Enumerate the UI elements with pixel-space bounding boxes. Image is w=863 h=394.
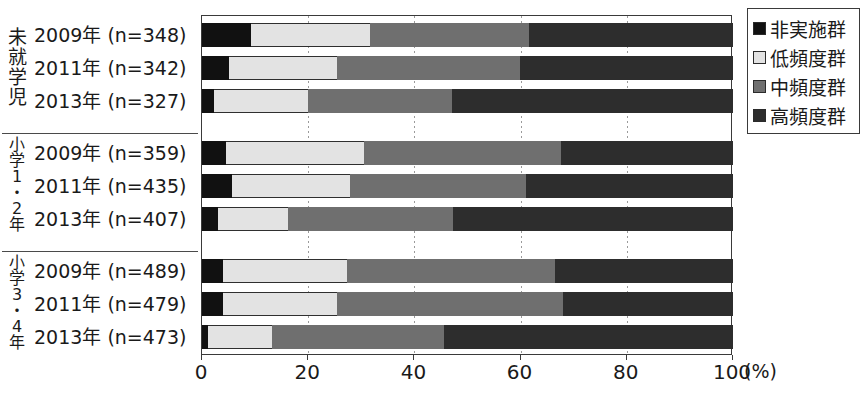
row-label: 2011年 (n=435): [34, 168, 186, 201]
bar-row: [202, 325, 733, 349]
bar-segment-低頻度群: [214, 89, 309, 113]
row-label: 2011年 (n=342): [34, 50, 186, 83]
bar-row: [202, 56, 733, 80]
bar-segment-非実施群: [202, 292, 223, 316]
legend-label: 高頻度群: [770, 102, 846, 129]
stacked-bar-chart: 未 就 学 児2009年 (n=348)2011年 (n=342)2013年 (…: [0, 0, 863, 394]
bar-segment-非実施群: [202, 259, 223, 283]
bar-segment-高頻度群: [526, 174, 733, 198]
bar-segment-高頻度群: [444, 325, 733, 349]
row-label: 2009年 (n=348): [34, 17, 186, 50]
x-tick-label: 40: [401, 360, 426, 384]
row-label: 2013年 (n=327): [34, 83, 186, 116]
group-separator-2: [2, 251, 198, 252]
bar-segment-中頻度群: [370, 23, 529, 47]
bar-segment-低頻度群: [229, 56, 337, 80]
bar-segment-非実施群: [202, 56, 229, 80]
legend-item-中頻度群[interactable]: 中頻度群: [753, 72, 859, 101]
x-tick-label: 0: [195, 360, 208, 384]
bar-segment-高頻度群: [563, 292, 733, 316]
x-axis-unit-label: (%): [744, 360, 777, 382]
bar-segment-高頻度群: [452, 89, 733, 113]
bar-segment-中頻度群: [347, 259, 555, 283]
group-block-2: 小 学 3 ・ 4 年2009年 (n=489)2011年 (n=479)201…: [0, 253, 186, 352]
row-label: 2009年 (n=359): [34, 135, 186, 168]
bar-segment-低頻度群: [232, 174, 349, 198]
bar-segment-非実施群: [202, 174, 232, 198]
bar-segment-非実施群: [202, 23, 251, 47]
bar-row: [202, 174, 733, 198]
bar-segment-非実施群: [202, 207, 218, 231]
bar-segment-低頻度群: [218, 207, 288, 231]
bar-segment-低頻度群: [223, 259, 348, 283]
row-label: 2013年 (n=473): [34, 319, 186, 352]
group-row-labels: 2009年 (n=348)2011年 (n=342)2013年 (n=327): [34, 17, 186, 116]
bar-segment-中頻度群: [272, 325, 444, 349]
bar-segment-高頻度群: [561, 141, 733, 165]
bar-row: [202, 292, 733, 316]
bar-segment-高頻度群: [453, 207, 733, 231]
x-tick-label: 60: [507, 360, 532, 384]
legend-swatch-dark-icon: [753, 109, 766, 122]
legend-swatch-light-icon: [753, 51, 766, 64]
group-block-1: 小 学 1 ・ 2 年2009年 (n=359)2011年 (n=435)201…: [0, 135, 186, 234]
bar-row: [202, 89, 733, 113]
legend-swatch-medium-icon: [753, 80, 766, 93]
bar-segment-中頻度群: [337, 292, 563, 316]
row-label: 2009年 (n=489): [34, 253, 186, 286]
bar-segment-非実施群: [202, 89, 214, 113]
bar-segment-高頻度群: [520, 56, 733, 80]
group-row-labels: 2009年 (n=489)2011年 (n=479)2013年 (n=473): [34, 253, 186, 352]
legend: 非実施群低頻度群中頻度群高頻度群: [747, 8, 860, 134]
bar-segment-中頻度群: [364, 141, 561, 165]
bar-row: [202, 141, 733, 165]
bar-segment-高頻度群: [529, 23, 733, 47]
legend-label: 中頻度群: [770, 73, 846, 100]
bar-segment-低頻度群: [226, 141, 364, 165]
legend-item-高頻度群[interactable]: 高頻度群: [753, 101, 859, 130]
group-separator-1: [2, 133, 198, 134]
x-axis: 020406080100: [201, 355, 732, 385]
x-tick-label: 80: [613, 360, 638, 384]
group-title: 小 学 1 ・ 2 年: [0, 137, 34, 233]
group-title: 未 就 学 児: [0, 27, 34, 107]
x-tick-label: 20: [294, 360, 319, 384]
bar-row: [202, 207, 733, 231]
bar-segment-低頻度群: [208, 325, 272, 349]
bar-segment-低頻度群: [223, 292, 337, 316]
row-label: 2011年 (n=479): [34, 286, 186, 319]
legend-item-非実施群[interactable]: 非実施群: [753, 14, 859, 43]
group-block-0: 未 就 学 児2009年 (n=348)2011年 (n=342)2013年 (…: [0, 17, 186, 116]
bar-segment-高頻度群: [555, 259, 733, 283]
plot-area: [201, 15, 732, 355]
bar-row: [202, 23, 733, 47]
bar-segment-中頻度群: [288, 207, 453, 231]
legend-swatch-black-icon: [753, 22, 766, 35]
bar-row: [202, 259, 733, 283]
bar-segment-中頻度群: [308, 89, 451, 113]
group-row-labels: 2009年 (n=359)2011年 (n=435)2013年 (n=407): [34, 135, 186, 234]
bar-segment-非実施群: [202, 141, 226, 165]
bar-segment-中頻度群: [350, 174, 526, 198]
group-title: 小 学 3 ・ 4 年: [0, 255, 34, 351]
bar-segment-低頻度群: [251, 23, 370, 47]
legend-item-低頻度群[interactable]: 低頻度群: [753, 43, 859, 72]
bar-segment-中頻度群: [337, 56, 520, 80]
legend-label: 低頻度群: [770, 44, 846, 71]
row-label: 2013年 (n=407): [34, 201, 186, 234]
legend-label: 非実施群: [770, 15, 846, 42]
